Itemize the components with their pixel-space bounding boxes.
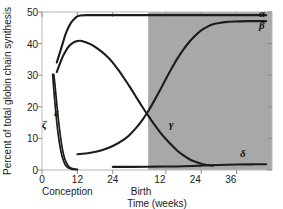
x-tick-label-prenatal-24: 24 — [107, 174, 119, 185]
y-tick-label-20: 20 — [27, 102, 39, 113]
series-label-beta: β — [258, 19, 265, 31]
y-tick-label-10: 10 — [27, 133, 39, 144]
x-axis-title: Time (weeks) — [127, 198, 187, 209]
series-label-gamma: γ — [169, 118, 174, 130]
y-axis-ticks — [38, 12, 42, 170]
conception-label: Conception — [42, 186, 93, 197]
x-tick-label-postnatal-36: 36 — [225, 174, 237, 185]
y-tick-label-50: 50 — [27, 7, 39, 18]
x-tick-label-prenatal-12: 12 — [72, 174, 84, 185]
x-tick-label-prenatal-0: 0 — [39, 174, 45, 185]
y-tick-label-40: 40 — [27, 39, 39, 50]
globin-chain-synthesis-figure: 50 40 30 20 10 0 0 12 24 12 24 36 Concep… — [0, 0, 283, 209]
x-tick-label-postnatal-24: 24 — [190, 174, 202, 185]
postnatal-shaded-region — [148, 12, 272, 170]
series-label-delta: δ — [240, 147, 246, 159]
y-axis-title: Percent of total globin chain synthesis — [2, 7, 13, 175]
y-tick-label-0: 0 — [32, 165, 38, 176]
chart-canvas: 50 40 30 20 10 0 0 12 24 12 24 36 Concep… — [0, 0, 283, 209]
series-label-epsilon: ε — [54, 106, 59, 118]
y-tick-label-30: 30 — [27, 70, 39, 81]
series-label-zeta: ζ — [42, 118, 48, 131]
series-label-alpha: α — [259, 7, 266, 19]
curve-zeta — [53, 74, 78, 169]
birth-label: Birth — [131, 186, 152, 197]
x-tick-label-postnatal-12: 12 — [154, 174, 166, 185]
